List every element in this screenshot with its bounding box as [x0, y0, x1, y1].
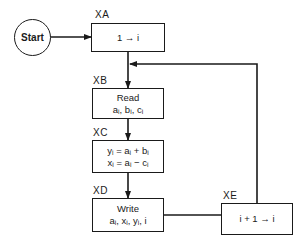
xe-box: i + 1 → i: [221, 203, 293, 235]
xe-label: XE: [223, 190, 237, 201]
xd-box: Write aᵢ, xᵢ, yᵢ, i: [92, 198, 164, 232]
xa-text: 1 → i: [117, 32, 139, 44]
xb-box: Read aᵢ, bᵢ, cᵢ: [92, 88, 164, 119]
xb-label: XB: [93, 75, 107, 86]
xc-text-2: xᵢ = aᵢ − cᵢ: [108, 157, 149, 169]
xd-text-2: aᵢ, xᵢ, yᵢ, i: [109, 215, 146, 227]
xc-label: XC: [93, 127, 108, 138]
xd-text-1: Write: [117, 203, 139, 215]
xd-label: XD: [93, 185, 108, 196]
start-node: Start: [14, 19, 51, 56]
flowchart-canvas: Start XA 1 → i XB Read aᵢ, bᵢ, cᵢ XC yᵢ …: [0, 0, 303, 245]
xc-text-1: yᵢ = aᵢ + bᵢ: [107, 145, 148, 157]
xa-box: 1 → i: [91, 23, 165, 52]
edge-xe-loop: [130, 64, 257, 203]
xb-text-1: Read: [117, 92, 140, 104]
xe-text: i + 1 → i: [239, 213, 274, 225]
xb-text-2: aᵢ, bᵢ, cᵢ: [113, 104, 143, 116]
xa-label: XA: [95, 9, 109, 20]
xc-box: yᵢ = aᵢ + bᵢ xᵢ = aᵢ − cᵢ: [92, 140, 164, 173]
start-text: Start: [21, 32, 44, 43]
